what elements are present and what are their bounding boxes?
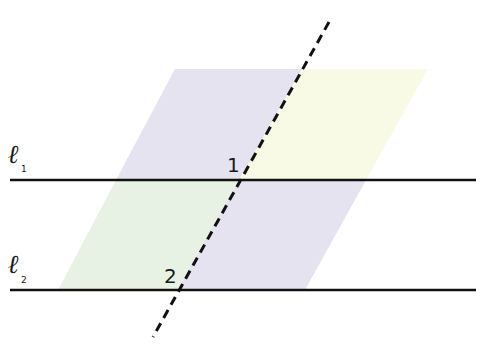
label-l1: ℓ 1 [8,139,27,174]
label-l2: ℓ 2 [8,249,27,285]
diagram-canvas: ℓ 1 ℓ 2 1 2 [0,0,492,349]
angle-label-2: 2 [164,264,177,288]
line-subscript: 2 [21,275,27,285]
line-letter: ℓ [8,249,19,279]
line-subscript: 1 [21,164,27,174]
line-letter: ℓ [8,139,19,169]
angle-label-1: 1 [227,153,240,177]
